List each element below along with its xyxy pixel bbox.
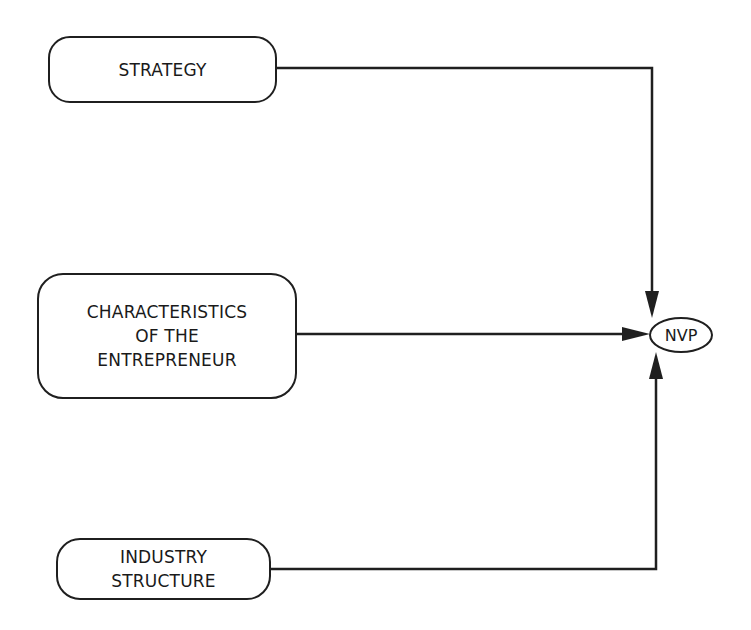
arrowhead-up-icon — [649, 352, 663, 379]
node-industry-structure: INDUSTRY STRUCTURE — [56, 538, 271, 600]
node-industry-label-line-1: INDUSTRY — [120, 545, 207, 569]
node-strategy: STRATEGY — [48, 36, 277, 103]
node-entrepreneur-label-line-2: OF THE — [135, 324, 199, 348]
node-nvp: NVP — [649, 317, 713, 353]
node-nvp-label: NVP — [665, 326, 698, 345]
arrowhead-right-icon — [622, 327, 650, 341]
node-entrepreneur-label-line-3: ENTREPRENEUR — [97, 348, 236, 372]
node-characteristics-of-entrepreneur: CHARACTERISTICS OF THE ENTREPRENEUR — [37, 273, 297, 399]
edge-strategy-nvp — [277, 68, 652, 300]
node-entrepreneur-label-line-1: CHARACTERISTICS — [87, 300, 247, 324]
edge-industry-nvp — [271, 372, 656, 569]
node-strategy-label: STRATEGY — [118, 58, 206, 82]
arrowhead-down-icon — [645, 291, 659, 318]
node-industry-label-line-2: STRUCTURE — [111, 569, 215, 593]
